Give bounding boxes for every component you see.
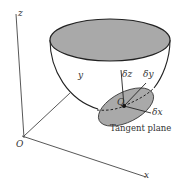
x-axis-line (22, 136, 146, 177)
delta-x-label: δx (152, 108, 163, 117)
z-axis-line (16, 14, 24, 138)
bowl-rim-ellipse (50, 19, 170, 61)
tangent-plane-label: Tangent plane (110, 124, 171, 133)
point-q-label: Q (117, 98, 124, 107)
delta-y-label: δy (143, 70, 154, 79)
axis-label-x: x (144, 171, 149, 180)
y-axis-line (24, 93, 70, 136)
axis-label-y: y (78, 71, 83, 80)
axis-label-z: z (18, 9, 23, 18)
delta-z-label: δz (122, 70, 132, 79)
diagram-canvas (0, 0, 180, 191)
origin-label: O (16, 140, 23, 149)
tangent-plane-diagram: z y x O Q δz δy δx Tangent plane (0, 0, 180, 191)
